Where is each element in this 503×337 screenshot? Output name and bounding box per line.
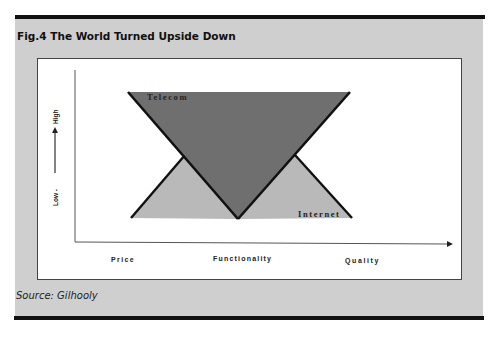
figure-source: Source: Gilhooly (16, 290, 98, 301)
x-label-quality: Quality (345, 257, 380, 265)
telecom-label: Telecom (147, 92, 188, 102)
up-arrow-icon (52, 127, 58, 133)
diagram-canvas: Telecom Internet Low - High Price Functi… (0, 0, 503, 337)
x-axis (75, 242, 447, 244)
x-label-price: Price (111, 256, 135, 263)
internet-label: Internet (298, 209, 341, 219)
x-axis-arrow-icon (447, 241, 453, 247)
y-axis-high-label: High (52, 110, 60, 124)
y-axis-low-label: Low - (52, 189, 59, 206)
x-label-functionality: Functionality (213, 255, 272, 263)
